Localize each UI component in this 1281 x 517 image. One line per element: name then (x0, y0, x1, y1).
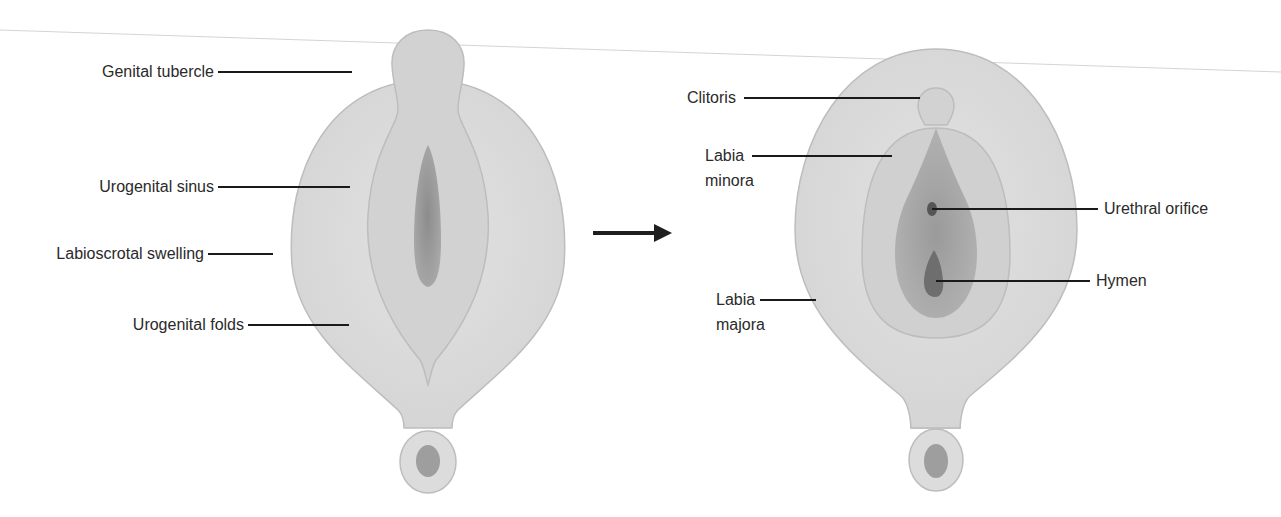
label-labioscrotal-swelling: Labioscrotal swelling (0, 244, 204, 263)
anus-right (924, 444, 948, 478)
label-genital-tubercle: Genital tubercle (0, 62, 214, 81)
label-labia-majora-line2: majora (716, 315, 765, 334)
label-urethral-orifice: Urethral orifice (1104, 199, 1208, 218)
indifferent-stage-illustration (291, 30, 564, 493)
anus (416, 445, 440, 477)
right-arrow-icon (593, 224, 672, 242)
label-urogenital-sinus: Urogenital sinus (0, 177, 214, 196)
label-clitoris: Clitoris (687, 88, 736, 107)
diagram-stage: Genital tubercle Urogenital sinus Labios… (0, 0, 1281, 517)
label-urogenital-folds: Urogenital folds (0, 315, 244, 334)
label-hymen: Hymen (1096, 271, 1147, 290)
label-labia-minora-line2: minora (705, 171, 754, 190)
label-labia-minora-line1: Labia (705, 146, 744, 165)
clitoris-shape (918, 88, 954, 125)
label-labia-majora-line1: Labia (716, 290, 755, 309)
female-differentiation-illustration (795, 49, 1077, 491)
